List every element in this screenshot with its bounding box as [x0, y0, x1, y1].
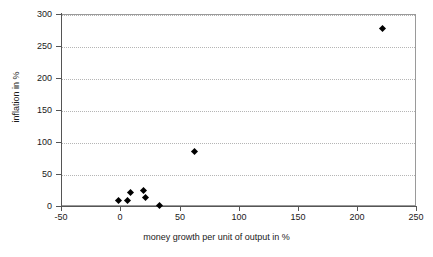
- gridline: [62, 15, 415, 16]
- x-axis-title: money growth per unit of output in %: [0, 232, 433, 242]
- gridline: [62, 143, 415, 144]
- y-axis-line: [61, 13, 62, 207]
- x-axis-tick-label: 200: [337, 213, 377, 222]
- y-axis-tick: [56, 46, 61, 47]
- y-axis-tick-label: 250: [0, 42, 52, 51]
- y-axis-tick: [56, 110, 61, 111]
- x-axis-tick: [357, 206, 358, 211]
- x-axis-tick: [416, 206, 417, 211]
- x-axis-tick-label: 150: [278, 213, 318, 222]
- y-axis-tick-label: 50: [0, 170, 52, 179]
- y-axis-tick-label: 100: [0, 138, 52, 147]
- y-axis-tick-label: 0: [0, 202, 52, 211]
- x-axis-tick: [180, 206, 181, 211]
- x-axis-tick-label: 250: [396, 213, 433, 222]
- y-axis-tick: [56, 78, 61, 79]
- scatter-chart-figure: 300 250 200 150 100 50 0 -50 0 50 100 15…: [0, 0, 433, 257]
- gridline: [62, 47, 415, 48]
- x-axis-tick-label: 50: [160, 213, 200, 222]
- y-axis-tick-label: 200: [0, 74, 52, 83]
- y-axis-tick: [56, 174, 61, 175]
- y-axis-title: inflation in %: [11, 37, 21, 157]
- x-axis-tick-label: -50: [41, 213, 81, 222]
- x-axis-tick: [298, 206, 299, 211]
- x-axis-tick: [120, 206, 121, 211]
- x-axis-tick: [61, 206, 62, 211]
- y-axis-tick: [56, 14, 61, 15]
- x-axis-tick-label: 100: [219, 213, 259, 222]
- gridline: [62, 175, 415, 176]
- gridline: [62, 111, 415, 112]
- gridline: [62, 79, 415, 80]
- y-axis-tick-label: 150: [0, 106, 52, 115]
- x-axis-tick-label: 0: [100, 213, 140, 222]
- y-axis-tick-label: 300: [0, 10, 52, 19]
- x-axis-tick: [239, 206, 240, 211]
- y-axis-tick: [56, 142, 61, 143]
- plot-area: [61, 14, 416, 206]
